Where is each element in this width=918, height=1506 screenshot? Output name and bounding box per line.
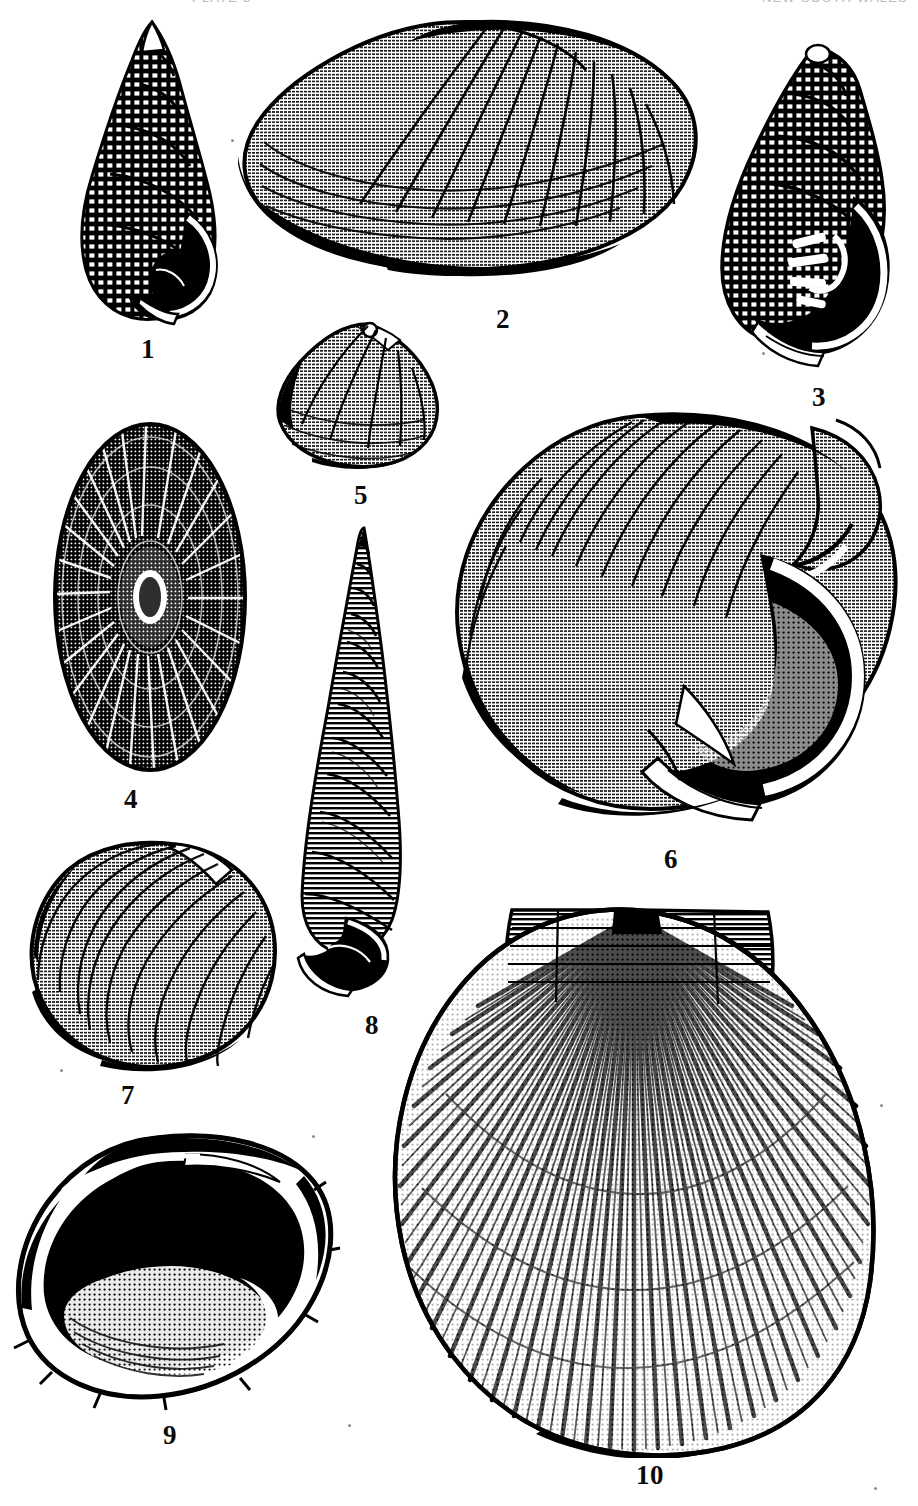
scan-speck — [231, 139, 234, 142]
running-header: PLATE 3 NEW SOUTH WALES — [0, 0, 918, 9]
scan-speck — [60, 1069, 63, 1072]
specimen-1 — [70, 18, 230, 330]
figure-label-5: 5 — [341, 482, 381, 509]
specimen-7 — [24, 838, 282, 1076]
figure-label-1: 1 — [128, 336, 168, 363]
scan-speck — [762, 352, 765, 355]
figure-label-4: 4 — [111, 786, 151, 813]
specimen-plate: PLATE 3 NEW SOUTH WALES — [0, 0, 918, 1506]
figure-label-10: 10 — [628, 1462, 672, 1489]
figure-label-6: 6 — [651, 846, 691, 873]
scan-speck — [312, 1135, 315, 1138]
specimen-9 — [8, 1128, 342, 1412]
specimen-10 — [376, 898, 884, 1458]
header-right-text: NEW SOUTH WALES — [762, 0, 908, 5]
specimen-3 — [714, 40, 912, 372]
specimen-4 — [50, 418, 250, 776]
figure-label-7: 7 — [108, 1082, 148, 1109]
figure-label-2: 2 — [483, 306, 523, 333]
specimen-5 — [272, 316, 448, 474]
scan-speck — [874, 1487, 877, 1490]
header-left-text: PLATE 3 — [192, 0, 251, 5]
scan-speck — [348, 1424, 351, 1427]
specimen-6 — [432, 406, 904, 836]
scan-speck — [880, 1104, 883, 1107]
specimen-2 — [236, 16, 704, 300]
figure-label-9: 9 — [150, 1422, 190, 1449]
